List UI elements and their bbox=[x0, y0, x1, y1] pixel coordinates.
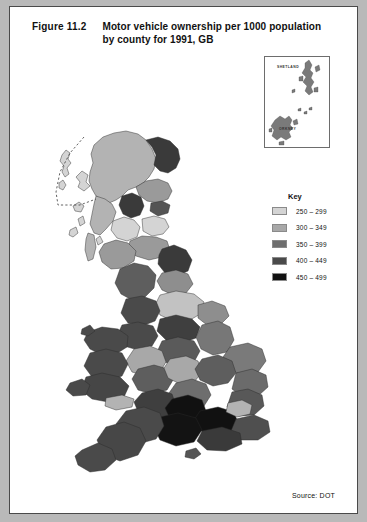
inset-label-orkney: ORKNEY bbox=[279, 127, 296, 131]
inset-fair-isle bbox=[292, 89, 295, 93]
region-pembroke bbox=[66, 379, 90, 396]
legend-item: 300 – 349 bbox=[272, 223, 352, 233]
region-lothian bbox=[142, 216, 169, 236]
region-arran bbox=[96, 236, 103, 245]
legend-label-300-349: 300 – 349 bbox=[296, 224, 327, 231]
inset-map-box: SHETLAND ORKNEY bbox=[264, 56, 330, 148]
inset-shetland-isle-b bbox=[299, 76, 303, 81]
region-essex bbox=[227, 389, 264, 416]
region-borders bbox=[128, 236, 170, 260]
legend-item: 350 – 399 bbox=[272, 239, 352, 249]
region-oxfordshire bbox=[165, 395, 206, 425]
legend-swatch-300-349 bbox=[272, 224, 287, 232]
inset-map bbox=[265, 57, 330, 148]
region-cambridgeshire bbox=[195, 355, 236, 386]
region-central bbox=[119, 193, 144, 218]
legend-label-400-449: 400 – 449 bbox=[296, 257, 327, 264]
page-title: Motor vehicle ownership per 1000 populat… bbox=[102, 21, 332, 46]
inset-orkney-isle-a bbox=[293, 119, 298, 125]
map-legend: Key 250 – 299 300 – 349 350 – 399 400 – … bbox=[272, 192, 352, 289]
region-gloucestershire bbox=[134, 389, 176, 420]
region-sussex bbox=[197, 427, 242, 451]
region-leicestershire bbox=[164, 356, 202, 384]
region-lincolnshire bbox=[196, 321, 234, 355]
legend-swatch-450-499 bbox=[272, 273, 287, 281]
region-strathclyde-west bbox=[90, 196, 116, 235]
region-south-yorkshire bbox=[157, 315, 200, 343]
region-western-isles bbox=[60, 150, 71, 177]
region-hebrides-south bbox=[59, 180, 66, 190]
region-swansea-strip bbox=[105, 395, 134, 410]
region-tayside bbox=[136, 179, 172, 203]
region-somerset bbox=[116, 407, 164, 444]
region-greater-london bbox=[226, 400, 252, 417]
region-fife bbox=[150, 201, 170, 216]
legend-title: Key bbox=[288, 192, 352, 201]
region-islay bbox=[69, 227, 78, 237]
region-northumberland bbox=[158, 245, 192, 276]
inset-isle-small-1 bbox=[298, 108, 301, 111]
region-berkshire bbox=[194, 407, 238, 436]
inset-locator-dashed-line bbox=[56, 137, 96, 205]
inset-label-shetland: SHETLAND bbox=[277, 65, 299, 69]
figure-title-block: Figure 11.2 Motor vehicle ownership per … bbox=[32, 21, 332, 46]
region-highland bbox=[89, 131, 156, 203]
inset-orkney-isle-c bbox=[279, 141, 284, 145]
region-jura bbox=[78, 216, 85, 226]
region-west-midlands bbox=[132, 365, 173, 394]
inset-isle-small-3 bbox=[309, 107, 312, 110]
legend-item: 450 – 499 bbox=[272, 272, 352, 282]
region-cumbria bbox=[115, 263, 156, 300]
region-kent bbox=[231, 415, 270, 440]
region-norfolk bbox=[223, 343, 266, 375]
inset-orkney-isle-b bbox=[269, 128, 272, 132]
figure-frame: Figure 11.2 Motor vehicle ownership per … bbox=[9, 6, 358, 514]
region-mull bbox=[73, 202, 84, 212]
inset-shetland-shape bbox=[302, 60, 314, 95]
region-dumfries bbox=[99, 240, 136, 269]
figure-number: Figure 11.2 bbox=[32, 21, 86, 32]
legend-label-450-499: 450 – 499 bbox=[296, 274, 327, 281]
region-hampshire bbox=[154, 413, 202, 446]
region-north-yorkshire bbox=[155, 291, 204, 321]
region-devon bbox=[97, 422, 146, 461]
region-south-wales bbox=[81, 373, 129, 402]
region-isle-of-wight bbox=[185, 448, 201, 459]
region-lancashire bbox=[121, 296, 160, 326]
legend-label-250-299: 250 – 299 bbox=[296, 208, 327, 215]
region-staffordshire bbox=[126, 346, 166, 376]
legend-item: 250 – 299 bbox=[272, 206, 352, 216]
region-glasgow bbox=[111, 217, 140, 241]
region-skye bbox=[76, 171, 90, 191]
inset-isle-small-2 bbox=[304, 111, 307, 114]
legend-swatch-250-299 bbox=[272, 207, 287, 215]
region-merseyside bbox=[117, 322, 158, 350]
region-derbyshire bbox=[157, 337, 200, 366]
legend-swatch-400-449 bbox=[272, 257, 287, 265]
source-note: Source: DOT bbox=[292, 492, 335, 499]
region-grampian bbox=[146, 137, 180, 173]
region-anglesey bbox=[81, 325, 95, 336]
region-humberside bbox=[198, 301, 229, 325]
legend-swatch-350-399 bbox=[272, 240, 287, 248]
region-north-wales bbox=[84, 327, 128, 355]
inset-shetland-isle-a bbox=[315, 65, 320, 72]
region-kintyre bbox=[85, 233, 96, 261]
region-durham bbox=[157, 270, 193, 295]
legend-label-350-399: 350 – 399 bbox=[296, 241, 327, 248]
region-mid-wales bbox=[84, 349, 128, 381]
inset-shetland-isle-c bbox=[314, 87, 318, 92]
region-cornwall bbox=[75, 443, 116, 472]
legend-item: 400 – 449 bbox=[272, 256, 352, 266]
region-northants bbox=[169, 379, 211, 410]
region-suffolk bbox=[232, 369, 268, 397]
